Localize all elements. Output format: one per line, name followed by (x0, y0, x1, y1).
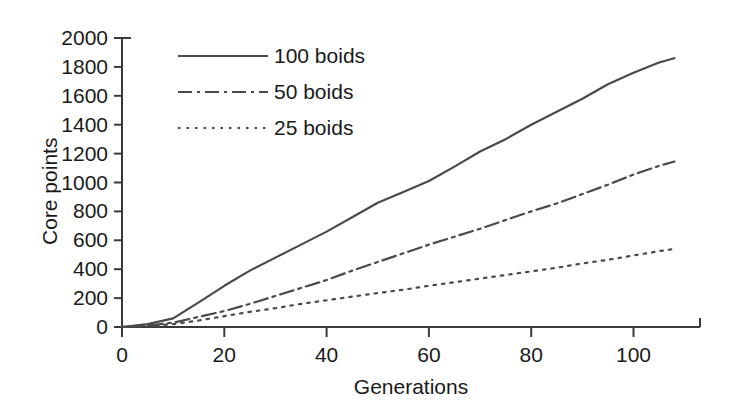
line-chart: 0200400600800100012001400160018002000020… (0, 0, 735, 403)
y-tick-label: 400 (0, 257, 108, 281)
y-tick-label: 1400 (0, 113, 108, 137)
y-tick-label: 200 (0, 286, 108, 310)
x-tick-label: 60 (417, 343, 440, 367)
x-tick-label: 80 (520, 343, 543, 367)
legend-label-1: 50 boids (274, 80, 353, 104)
y-tick-label: 0 (0, 315, 108, 339)
series-line-50-boids (122, 162, 674, 327)
legend-label-2: 25 boids (274, 116, 353, 140)
y-tick-label: 2000 (0, 26, 108, 50)
y-axis-title: Core points (38, 137, 62, 244)
x-tick-label: 20 (213, 343, 236, 367)
x-tick-label: 0 (116, 343, 128, 367)
x-tick-label: 40 (315, 343, 338, 367)
y-tick-label: 1600 (0, 84, 108, 108)
series-line-100-boids (122, 58, 674, 327)
x-tick-label: 100 (616, 343, 651, 367)
legend-label-0: 100 boids (274, 44, 365, 68)
x-axis-title: Generations (354, 375, 468, 399)
y-tick-label: 1800 (0, 55, 108, 79)
